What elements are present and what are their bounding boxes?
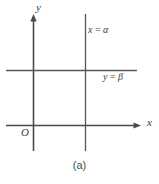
y-axis-arrowhead-icon	[30, 14, 36, 22]
coordinate-diagram	[0, 0, 159, 184]
horizontal-line-label: y = β	[103, 72, 123, 82]
vertical-line-label-value: α	[103, 24, 108, 35]
y-axis	[30, 14, 36, 151]
vertical-line-label: x = α	[88, 25, 108, 35]
x-axis-label: x	[147, 117, 152, 128]
vertical-line-label-equals: =	[92, 24, 103, 35]
horizontal-line-label-equals: =	[107, 71, 118, 82]
y-axis-label: y	[36, 2, 41, 13]
horizontal-line-label-value: β	[118, 71, 123, 82]
figure-panel: y x O x = α y = β (a)	[0, 0, 159, 184]
x-axis-arrowhead-icon	[134, 122, 142, 128]
origin-label: O	[21, 127, 29, 138]
figure-caption: (a)	[0, 159, 159, 171]
